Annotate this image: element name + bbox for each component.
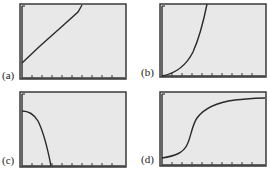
graph-c xyxy=(0,87,135,174)
panel-b: (b) xyxy=(135,0,270,87)
panel-a: (a) xyxy=(0,0,135,87)
panel-d: (d) xyxy=(135,87,270,174)
graph-b xyxy=(135,0,270,87)
graph-a xyxy=(0,0,135,87)
panel-c: (c) xyxy=(0,87,135,174)
graph-d xyxy=(135,87,270,174)
